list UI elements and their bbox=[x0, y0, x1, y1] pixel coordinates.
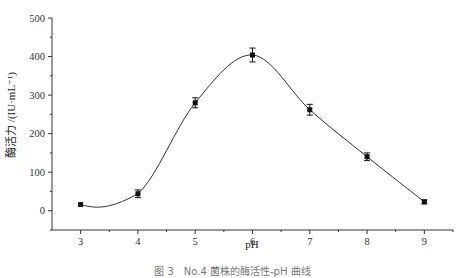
square-marker-icon bbox=[135, 191, 140, 196]
x-tick-label: 5 bbox=[193, 236, 198, 247]
x-tick-label: 9 bbox=[422, 236, 427, 247]
y-axis-title: 酶活力 /(IU·mL⁻¹) bbox=[5, 72, 18, 158]
x-tick-label: 4 bbox=[135, 236, 141, 247]
square-marker-icon bbox=[250, 53, 255, 58]
x-tick-label: 8 bbox=[364, 236, 369, 247]
square-marker-icon bbox=[422, 199, 427, 204]
square-marker-icon bbox=[193, 100, 198, 105]
y-tick-label: 100 bbox=[29, 167, 45, 178]
y-tick-label: 400 bbox=[29, 51, 45, 62]
x-tick-label: 7 bbox=[307, 236, 312, 247]
fitted-curve bbox=[81, 55, 425, 207]
figure-caption: 图 3 No.4 菌株的酶活性-pH 曲线 bbox=[0, 263, 465, 278]
square-marker-icon bbox=[78, 202, 83, 207]
curve-path bbox=[81, 55, 425, 207]
square-marker-icon bbox=[307, 107, 312, 112]
y-tick-label: 300 bbox=[29, 90, 45, 101]
y-tick-label: 0 bbox=[40, 205, 45, 216]
axes: 01002003004005003456789 bbox=[29, 13, 453, 248]
x-axis-title: pH bbox=[245, 238, 259, 250]
data-points bbox=[78, 48, 427, 207]
y-tick-label: 200 bbox=[29, 128, 45, 139]
chart-canvas: 01002003004005003456789 pH 酶活力 /(IU·mL⁻¹… bbox=[0, 0, 465, 262]
y-tick-label: 500 bbox=[29, 13, 45, 24]
square-marker-icon bbox=[365, 154, 370, 159]
x-tick-label: 3 bbox=[78, 236, 83, 247]
